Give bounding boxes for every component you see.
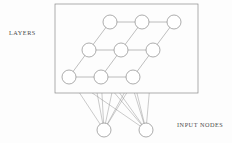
layer-node: [62, 70, 76, 84]
layer-node: [126, 70, 140, 84]
figure-root: LAYERS INPUT NODES: [0, 0, 232, 143]
layer-node: [135, 15, 149, 29]
layer-node: [167, 15, 181, 29]
layer-node: [146, 43, 160, 57]
input-node: [97, 123, 111, 137]
input-nodes-label: INPUT NODES: [177, 122, 223, 128]
layer-node: [103, 15, 117, 29]
layer-node: [94, 70, 108, 84]
layers-label: LAYERS: [9, 30, 36, 36]
input-node-group: [97, 123, 153, 137]
layer-node: [82, 43, 96, 57]
layer-node: [114, 43, 128, 57]
input-node: [139, 123, 153, 137]
